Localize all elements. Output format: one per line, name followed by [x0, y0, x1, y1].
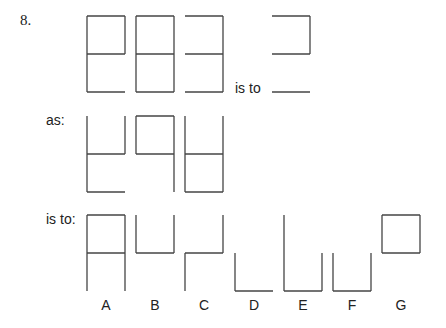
option-g-figure — [382, 215, 420, 253]
target-figure — [272, 16, 310, 92]
option-label-a: A — [101, 297, 111, 313]
option-c-figure — [185, 215, 223, 291]
option-label-b: B — [150, 297, 159, 313]
stem-figure-3 — [185, 16, 223, 92]
stem-figure-1 — [87, 16, 125, 92]
option-label-d: D — [249, 297, 259, 313]
option-d-figure — [235, 253, 273, 291]
option-a-figure — [87, 215, 125, 291]
option-b-figure — [136, 215, 174, 253]
option-label-f: F — [348, 297, 357, 313]
as-figure-2 — [136, 116, 174, 192]
stem-figure-2 — [136, 16, 174, 92]
as-figure-1 — [87, 116, 125, 192]
option-label-c: C — [199, 297, 209, 313]
option-e-figure — [284, 215, 322, 291]
option-label-e: E — [298, 297, 307, 313]
as-figure-3 — [185, 116, 223, 192]
option-label-g: G — [396, 297, 407, 313]
option-f-figure — [333, 253, 371, 291]
puzzle-canvas: ABCDEFG — [0, 0, 446, 328]
